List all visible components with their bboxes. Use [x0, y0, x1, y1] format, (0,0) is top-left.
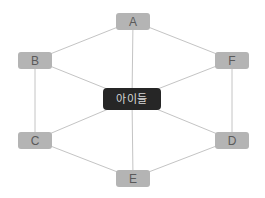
center-node: 아이들 [103, 88, 161, 110]
edge-center-e [132, 99, 133, 178]
node-c: C [18, 132, 52, 149]
node-a: A [116, 13, 150, 30]
node-f-label: F [228, 55, 235, 67]
node-d: D [215, 132, 249, 149]
node-f: F [215, 52, 249, 69]
node-e: E [116, 170, 150, 187]
diagram-canvas: A B F C D E 아이들 [0, 0, 265, 198]
node-d-label: D [228, 135, 237, 147]
node-b-label: B [31, 55, 39, 67]
node-e-label: E [129, 173, 137, 185]
node-c-label: C [31, 135, 40, 147]
center-node-label: 아이들 [116, 94, 148, 105]
node-b: B [18, 52, 52, 69]
node-a-label: A [129, 16, 137, 28]
